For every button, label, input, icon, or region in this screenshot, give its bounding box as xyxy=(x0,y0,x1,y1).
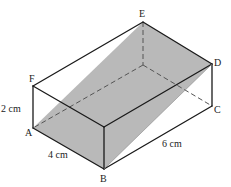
dimension-width: 4 cm xyxy=(48,149,68,160)
vertex-label-c: C xyxy=(214,104,221,115)
vertex-label-a: A xyxy=(25,127,33,138)
dimension-length: 6 cm xyxy=(162,138,182,149)
vertex-label-d: D xyxy=(214,57,221,68)
vertex-label-f: F xyxy=(29,73,35,84)
dimension-height: 2 cm xyxy=(1,103,21,114)
vertex-label-e: E xyxy=(139,8,145,19)
cuboid-diagram: E D C F A B 2 cm 4 cm 6 cm xyxy=(0,0,231,187)
shaded-plane-abde xyxy=(33,22,212,169)
vertex-label-b: B xyxy=(100,173,107,184)
